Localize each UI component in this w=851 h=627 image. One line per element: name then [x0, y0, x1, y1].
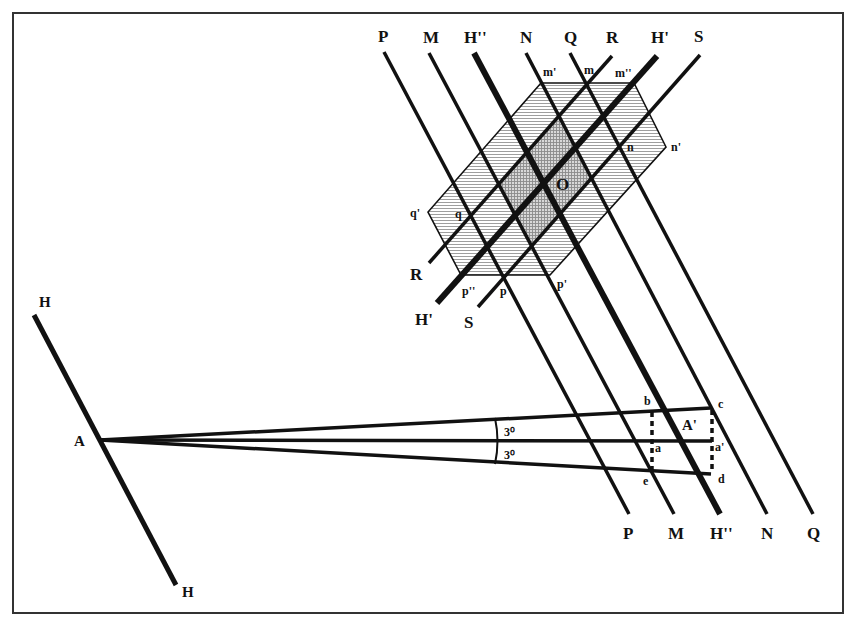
vertex-label: m'' — [615, 66, 632, 80]
geometry-diagram: PPMMH''H''NNQQRRH'H'SSHHA3⁰3⁰m'mm''nn'q'… — [0, 0, 851, 627]
label-bottom-s: S — [464, 313, 473, 332]
ray-1 — [100, 440, 712, 441]
label-top-s: S — [694, 27, 703, 46]
vertex-label: n' — [671, 140, 681, 154]
vertex-label: q — [455, 207, 462, 221]
label-top-p: P — [378, 27, 388, 46]
point-label: b — [644, 394, 651, 408]
angle-label: 3⁰ — [504, 448, 515, 462]
vertex-label: p — [500, 284, 507, 298]
label-top-n: N — [520, 28, 533, 47]
label-group: PPMMH''H''NNQQRRH'H'SSHHA3⁰3⁰m'mm''nn'q'… — [39, 27, 820, 600]
label-top-q: Q — [564, 28, 577, 47]
diagram-canvas: PPMMH''H''NNQQRRH'H'SSHHA3⁰3⁰m'mm''nn'q'… — [0, 0, 851, 627]
label-bottom-n: N — [761, 524, 774, 543]
label-top-r: R — [606, 28, 619, 47]
ray-2 — [100, 440, 711, 474]
point-label: c — [718, 397, 724, 411]
vertex-label: p'' — [462, 284, 475, 298]
line-q — [570, 53, 813, 514]
point-label: a — [655, 441, 661, 455]
point-label: d — [718, 472, 725, 486]
point-label: A' — [682, 417, 697, 433]
label-center-o: O — [556, 175, 569, 194]
label-bottom-h2: H'' — [710, 524, 733, 543]
vertex-label: q' — [410, 206, 420, 220]
label-bottom-p: P — [623, 524, 633, 543]
line-h — [34, 315, 176, 585]
label-point-a: A — [74, 433, 85, 449]
label-bottom-q: Q — [807, 524, 820, 543]
ray-group — [100, 408, 712, 474]
point-label: a' — [715, 440, 724, 454]
label-bottom-h1: H' — [415, 310, 433, 329]
vertex-label: n — [627, 140, 634, 154]
vertex-label: m' — [543, 65, 556, 79]
vertex-label: m — [584, 63, 594, 77]
label-bottom-r: R — [410, 265, 423, 284]
label-h-top: H — [39, 294, 51, 310]
point-label: e — [643, 474, 649, 488]
label-top-h2: H'' — [464, 28, 487, 47]
label-h-bottom: H — [182, 584, 194, 600]
ray-0 — [100, 408, 711, 440]
label-top-h1: H' — [651, 28, 669, 47]
label-top-m: M — [423, 28, 439, 47]
label-bottom-m: M — [668, 524, 684, 543]
vertex-label: p' — [557, 277, 567, 291]
angle-label: 3⁰ — [504, 425, 515, 439]
